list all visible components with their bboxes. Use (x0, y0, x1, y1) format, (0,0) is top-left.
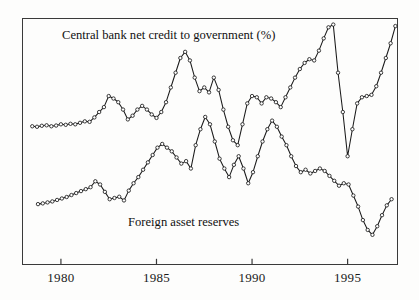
data-point-marker (140, 104, 143, 107)
data-point-marker (255, 96, 258, 99)
data-point-marker (179, 56, 182, 59)
data-point-marker (113, 196, 116, 199)
data-point-marker (376, 225, 379, 228)
data-point-marker (226, 125, 229, 128)
series-label-foreign-asset-reserves: Foreign asset reserves (128, 215, 239, 230)
data-point-marker (55, 198, 58, 201)
data-point-marker (79, 189, 82, 192)
data-point-marker (279, 105, 282, 108)
data-point-marker (360, 96, 363, 99)
data-point-marker (217, 88, 220, 91)
data-point-marker (308, 58, 311, 61)
data-point-marker (98, 183, 101, 186)
data-point-marker (69, 122, 72, 125)
data-point-marker (198, 89, 201, 92)
data-point-marker (394, 24, 397, 27)
data-point-marker (51, 200, 54, 203)
data-point-marker (303, 61, 306, 64)
data-point-marker (93, 116, 96, 119)
data-point-marker (121, 108, 124, 111)
x-axis-tick-label: 1980 (47, 270, 74, 286)
data-point-marker (88, 120, 91, 123)
data-point-marker (103, 190, 106, 193)
data-point-marker (193, 76, 196, 79)
data-point-marker (102, 105, 105, 108)
data-point-marker (266, 128, 269, 131)
data-point-marker (384, 56, 387, 59)
data-point-marker (64, 123, 67, 126)
data-point-marker (385, 204, 388, 207)
data-point-marker (165, 146, 168, 149)
data-point-marker (247, 182, 250, 185)
data-point-marker (317, 49, 320, 52)
data-point-marker (337, 184, 340, 187)
data-point-marker (323, 169, 326, 172)
data-point-marker (117, 101, 120, 104)
data-point-marker (261, 140, 264, 143)
chart-figure: Central bank net credit to government (%… (0, 0, 419, 300)
data-point-marker (390, 198, 393, 201)
data-point-marker (356, 205, 359, 208)
data-point-marker (389, 42, 392, 45)
data-point-marker (218, 157, 221, 160)
data-point-marker (299, 171, 302, 174)
data-point-marker (89, 185, 92, 188)
data-point-marker (126, 118, 129, 121)
data-point-marker (112, 97, 115, 100)
data-point-marker (46, 201, 49, 204)
data-point-marker (352, 194, 355, 197)
data-point-marker (304, 168, 307, 171)
series-label-central-bank-credit: Central bank net credit to government (%… (62, 28, 275, 43)
data-point-marker (312, 59, 315, 62)
x-axis-tick-label: 1995 (334, 270, 361, 286)
data-point-marker (164, 101, 167, 104)
data-point-marker (60, 197, 63, 200)
data-point-marker (41, 202, 44, 205)
data-point-marker (36, 202, 39, 205)
data-point-marker (246, 102, 249, 105)
data-point-marker (145, 108, 148, 111)
data-point-marker (151, 153, 154, 156)
x-axis-tick-label: 1985 (143, 270, 170, 286)
data-point-marker (137, 175, 140, 178)
data-point-marker (332, 23, 335, 26)
x-axis-tick-label: 1990 (238, 270, 265, 286)
data-point-marker (161, 142, 164, 145)
data-point-marker (213, 140, 216, 143)
data-point-marker (260, 102, 263, 105)
data-point-marker (127, 189, 130, 192)
data-point-marker (375, 85, 378, 88)
data-point-marker (223, 167, 226, 170)
data-point-marker (361, 218, 364, 221)
data-point-marker (284, 96, 287, 99)
data-point-marker (184, 159, 187, 162)
data-point-marker (70, 193, 73, 196)
data-point-marker (342, 182, 345, 185)
data-point-marker (232, 163, 235, 166)
data-point-marker (40, 124, 43, 127)
data-point-marker (118, 195, 121, 198)
data-point-marker (150, 113, 153, 116)
data-point-marker (237, 155, 240, 158)
data-point-marker (65, 195, 68, 198)
data-point-marker (169, 86, 172, 89)
data-series-group (31, 23, 398, 237)
data-point-marker (108, 198, 111, 201)
data-point-marker (222, 108, 225, 111)
data-point-marker (174, 71, 177, 74)
data-point-marker (328, 174, 331, 177)
data-point-marker (122, 199, 125, 202)
data-point-marker (75, 191, 78, 194)
data-point-marker (35, 125, 38, 128)
data-point-marker (107, 94, 110, 97)
data-point-marker (59, 123, 62, 126)
data-point-marker (289, 86, 292, 89)
data-point-marker (294, 164, 297, 167)
data-point-marker (274, 101, 277, 104)
data-point-marker (131, 114, 134, 117)
data-point-marker (141, 168, 144, 171)
data-point-marker (54, 124, 57, 127)
data-point-marker (366, 228, 369, 231)
data-point-marker (208, 123, 211, 126)
data-point-marker (298, 67, 301, 70)
